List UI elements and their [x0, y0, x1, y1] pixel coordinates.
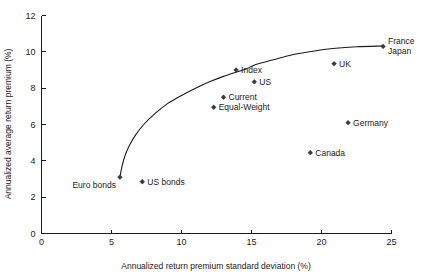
- y-tick-label: 6: [30, 120, 35, 130]
- x-axis-title: Annualized return premium standard devia…: [121, 261, 311, 271]
- y-tick-label: 0: [30, 229, 35, 239]
- data-point-label: Equal-Weight: [219, 102, 271, 112]
- y-tick-label: 10: [25, 47, 35, 57]
- data-point-label: Japan: [388, 46, 411, 56]
- data-point-label: Current: [229, 92, 258, 102]
- y-tick-label: 2: [30, 192, 35, 202]
- x-tick-label: 10: [176, 237, 186, 247]
- data-point-label: Index: [241, 65, 263, 75]
- data-point-label: Euro bonds: [72, 180, 115, 190]
- data-point-label: US: [259, 77, 271, 87]
- x-tick-label: 5: [109, 237, 114, 247]
- data-point-label: Germany: [353, 118, 389, 128]
- data-point-label: Canada: [315, 148, 345, 158]
- scatter-chart: 024681012 0510152025 Euro bondsUS bondsE…: [0, 0, 428, 276]
- y-tick-label: 12: [25, 11, 35, 21]
- x-tick-label: 25: [386, 237, 396, 247]
- data-point-label: UK: [339, 59, 351, 69]
- y-axis-title: Annualized average return premium (%): [3, 48, 13, 199]
- x-tick-label: 0: [39, 237, 44, 247]
- x-tick-label: 20: [316, 237, 326, 247]
- data-point-label: France: [388, 36, 415, 46]
- y-tick-label: 8: [30, 83, 35, 93]
- chart-background: [0, 0, 428, 276]
- chart-canvas: 024681012 0510152025 Euro bondsUS bondsE…: [0, 0, 428, 276]
- x-tick-label: 15: [246, 237, 256, 247]
- data-point-label: US bonds: [147, 177, 184, 187]
- y-tick-label: 4: [30, 156, 35, 166]
